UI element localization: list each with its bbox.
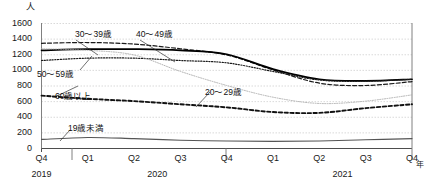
x-year-label: 2021 [313, 170, 373, 179]
x-tick-label: Q4 [25, 154, 59, 163]
series-line-19歳未満 [42, 137, 413, 141]
y-tick-label: 1600 [0, 19, 32, 28]
x-tick-label: Q1 [71, 154, 105, 163]
series-label-60歳以上: 60歳以上 [55, 92, 91, 101]
x-year-label: 2019 [12, 170, 72, 179]
y-tick-label: 1000 [0, 65, 32, 74]
series-line-50～59歳 [42, 58, 413, 81]
x-tick-label: Q2 [117, 154, 151, 163]
x-tick-label: Q4 [395, 154, 429, 163]
y-tick-label: 1200 [0, 50, 32, 59]
y-tick-label: 400 [0, 112, 32, 121]
y-tick-label: 1400 [0, 34, 32, 43]
x-tick-label: Q1 [256, 154, 290, 163]
y-tick-label: 0 [0, 144, 32, 153]
x-tick-label: Q3 [349, 154, 383, 163]
series-label-50～59歳: 50～59歳 [37, 70, 74, 79]
x-tick-label: Q2 [302, 154, 336, 163]
series-line-60歳以上 [42, 96, 413, 113]
series-label-30～39歳: 30～39歳 [75, 30, 112, 39]
series-label-19歳未満: 19歳未満 [68, 124, 104, 133]
series-line-40～49歳 [42, 49, 413, 81]
y-tick-label: 600 [0, 97, 32, 106]
series-label-20～29歳: 20～29歳 [205, 88, 242, 97]
y-tick-label: 200 [0, 128, 32, 137]
y-tick-label: 800 [0, 81, 32, 90]
x-tick-label: Q4 [210, 154, 244, 163]
x-year-label: 2020 [127, 170, 187, 179]
x-tick-label: Q3 [163, 154, 197, 163]
series-label-40～49歳: 40～49歳 [136, 30, 173, 39]
chart-container: 人 年 02004006008001000120014001600 Q4Q1Q2… [0, 0, 431, 187]
